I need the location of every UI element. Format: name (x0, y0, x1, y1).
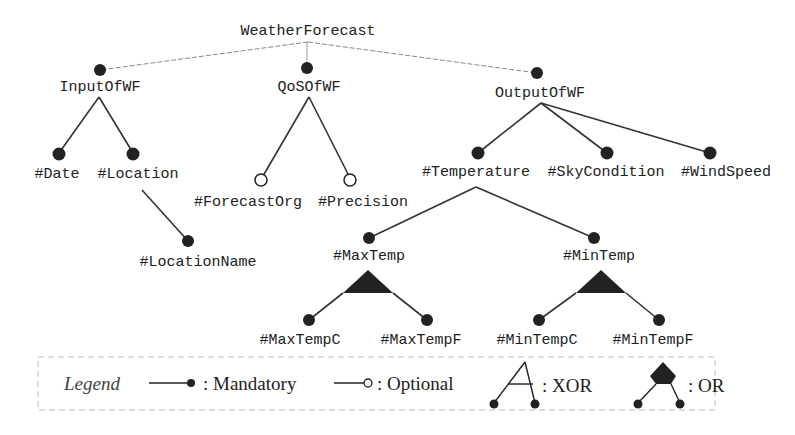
mandatory-dot-icon (531, 400, 540, 409)
mandatory-dot-icon (490, 400, 499, 409)
or-group-icon-maxtemp (343, 270, 393, 293)
legend-optional-label: : Optional (377, 373, 454, 394)
mandatory-dot-icon (676, 400, 685, 409)
optional-dot-icon (344, 174, 356, 186)
legend: Legend : Mandatory : Optional : XOR : OR (38, 357, 725, 410)
node-label-mintempf: #MinTempF (612, 332, 693, 349)
mandatory-dot-icon (421, 314, 433, 326)
node-label-date: #Date (34, 166, 79, 183)
node-label-qos: QoSOfWF (277, 79, 340, 96)
feature-model-diagram: WeatherForecast InputOfWF QoSOfWF Output… (0, 0, 795, 435)
optional-dots (255, 174, 356, 186)
mandatory-dot-icon (588, 232, 600, 244)
mandatory-dot-icon (301, 62, 313, 74)
node-label-windspeed: #WindSpeed (681, 164, 771, 181)
node-label-forecastorg: #ForecastOrg (194, 194, 302, 211)
mandatory-dot-icon (53, 148, 66, 161)
node-label-mintempc: #MinTempC (496, 332, 577, 349)
mandatory-dot-icon (127, 148, 140, 161)
xor-group-icon (494, 362, 535, 403)
optional-dot-icon (255, 174, 267, 186)
node-label-output: OutputOfWF (495, 85, 585, 102)
legend-title: Legend (63, 373, 120, 394)
mandatory-dot-icon (303, 314, 315, 326)
mandatory-dot-icon (601, 147, 614, 160)
legend-mandatory-label: : Mandatory (203, 373, 297, 394)
mandatory-dot-icon (533, 314, 545, 326)
mandatory-dot-icon (531, 67, 543, 79)
node-label-mintemp: #MinTemp (563, 248, 635, 265)
mandatory-dot-icon (94, 64, 106, 76)
mandatory-dot-icon (472, 147, 485, 160)
root-edges (100, 42, 537, 73)
legend-or-label: : OR (688, 375, 725, 396)
node-label-root: WeatherForecast (240, 23, 375, 40)
node-label-locationname: #LocationName (139, 254, 256, 271)
mandatory-dot-icon (634, 400, 643, 409)
mandatory-dot-icon (653, 314, 665, 326)
node-label-maxtemp: #MaxTemp (333, 248, 405, 265)
or-group-icon-mintemp (576, 270, 626, 293)
node-label-location: #Location (97, 166, 178, 183)
node-label-maxtempf: #MaxTempF (380, 332, 461, 349)
node-label-skycondition: #SkyCondition (547, 164, 664, 181)
or-group-icon (638, 362, 680, 403)
mandatory-dot-icon (187, 379, 195, 387)
node-label-input: InputOfWF (59, 79, 140, 96)
legend-xor-label: : XOR (542, 375, 592, 396)
optional-dot-icon (364, 379, 372, 387)
node-label-temperature: #Temperature (422, 164, 530, 181)
mandatory-dot-icon (363, 232, 375, 244)
node-label-maxtempc: #MaxTempC (259, 332, 340, 349)
mandatory-dot-icon (704, 147, 717, 160)
node-label-precision: #Precision (318, 194, 408, 211)
mandatory-dot-icon (182, 235, 194, 247)
